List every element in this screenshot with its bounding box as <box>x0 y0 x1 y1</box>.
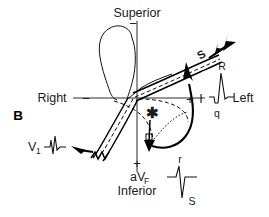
asterisk-marker: ✱ <box>146 104 159 121</box>
inferior-plus-sign: + <box>133 156 141 171</box>
figure-canvas: S ✱ − − + + Superior Inferior Right <box>0 0 269 217</box>
lead-avf-r-wave-label: r <box>178 153 182 165</box>
inferior-label: Inferior <box>118 184 157 198</box>
right-label: Right <box>37 91 67 105</box>
lead-i-q-wave-label: q <box>214 107 220 119</box>
panel-label-b: B <box>13 108 23 123</box>
lead-i-r-wave-label: R <box>218 60 226 72</box>
lead-v1-sublabel: 1 <box>36 146 41 156</box>
lead-avf-s-wave-label: S <box>188 195 195 207</box>
lead-i-label: I <box>199 92 202 106</box>
mid-vector-shaft <box>149 120 150 142</box>
left-label: Left <box>233 91 254 105</box>
superior-label: Superior <box>113 6 160 20</box>
lead-avf-sublabel: F <box>144 176 149 186</box>
vectorcardiogram-figure: S ✱ − − + + Superior Inferior Right <box>0 0 269 217</box>
left-plus-sign: + <box>186 92 194 107</box>
right-minus-sign: − <box>82 91 90 106</box>
